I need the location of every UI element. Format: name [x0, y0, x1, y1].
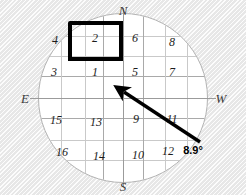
grid-cell-5[interactable]: 5: [132, 66, 138, 78]
compass-label-west: W: [216, 92, 227, 105]
grid-cell-1[interactable]: 1: [92, 66, 98, 78]
grid-cell-13[interactable]: 13: [90, 116, 102, 128]
figure-canvas: 42683157151391116141012 N S E W 8.9°: [0, 0, 246, 195]
grid-cell-9[interactable]: 9: [133, 113, 139, 125]
bearing-value-label: 8.9°: [183, 145, 203, 156]
grid-cell-8[interactable]: 8: [169, 36, 175, 48]
grid-cell-4[interactable]: 4: [52, 34, 58, 46]
compass-label-south: S: [120, 180, 127, 193]
tick-west: [204, 98, 216, 99]
grid-cell-12[interactable]: 12: [162, 145, 174, 157]
grid-cell-16[interactable]: 16: [56, 146, 68, 158]
axis-line-vertical: [123, 14, 124, 182]
tick-east: [30, 98, 42, 99]
grid-cell-6[interactable]: 6: [132, 32, 138, 44]
grid-cell-11[interactable]: 11: [166, 113, 177, 125]
grid-cell-7[interactable]: 7: [169, 66, 175, 78]
selected-cell-highlight[interactable]: [68, 21, 123, 61]
grid-cell-3[interactable]: 3: [51, 66, 57, 78]
grid-cell-15[interactable]: 15: [50, 114, 62, 126]
grid-cell-10[interactable]: 10: [132, 149, 144, 161]
grid-cell-14[interactable]: 14: [93, 150, 105, 162]
compass-label-north: N: [119, 4, 128, 17]
compass-label-east: E: [21, 92, 29, 105]
